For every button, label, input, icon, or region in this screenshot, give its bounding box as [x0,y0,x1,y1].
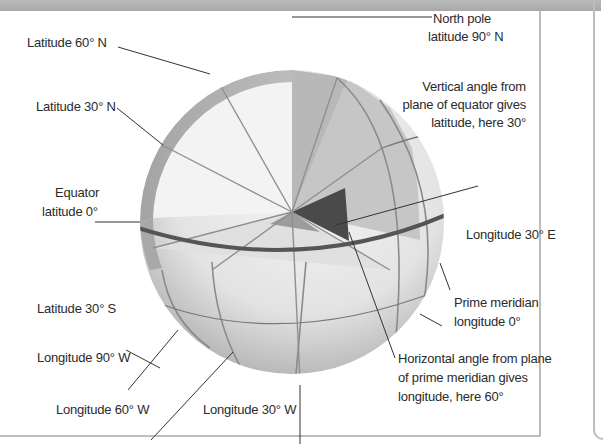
label-vertical-angle-1: Vertical angle from [400,78,526,95]
label-prime-meridian-longitude: longitude 0° [454,313,520,330]
label-horizontal-angle-1: Horizontal angle from plane [398,350,552,367]
label-vertical-angle-3: latitude, here 30° [400,114,526,131]
label-latitude-30s: Latitude 30° S [37,300,116,317]
parallel-60n [347,68,372,78]
label-longitude-30e: Longitude 30° E [466,226,556,243]
label-longitude-30w: Longitude 30° W [203,401,296,418]
label-horizontal-angle-2: of prime meridian gives [398,369,528,386]
label-north-pole: North pole [433,10,491,27]
label-latitude-30n: Latitude 30° N [36,98,116,115]
label-prime-meridian: Prime meridian [454,294,539,311]
label-horizontal-angle-3: longitude, here 60° [398,388,503,405]
label-equator-title: Equator [42,184,112,201]
label-longitude-90w: Longitude 90° W [37,349,130,366]
label-longitude-60w: Longitude 60° W [56,401,149,418]
label-equator-latitude: latitude 0° [35,203,105,220]
label-vertical-angle-2: plane of equator gives [380,96,526,113]
label-north-pole-latitude: latitude 90° N [428,28,503,45]
label-latitude-60n: Latitude 60° N [27,34,107,51]
